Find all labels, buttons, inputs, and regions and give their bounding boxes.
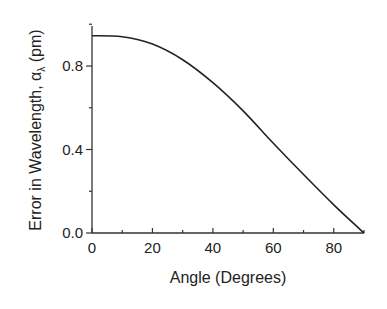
x-axis-label: Angle (Degrees) — [170, 269, 287, 286]
y-label-prefix: Error in Wavelength, — [27, 81, 44, 231]
x-tick-label: 40 — [205, 239, 222, 256]
y-label-symbol: α — [27, 72, 44, 81]
x-tick-label: 60 — [265, 239, 282, 256]
x-tick-label: 0 — [88, 239, 96, 256]
chart: 020406080 0.00.40.8 Angle (Degrees) Erro… — [0, 0, 387, 309]
x-tick-label: 80 — [325, 239, 342, 256]
plot-area: 020406080 0.00.40.8 — [62, 24, 364, 256]
y-ticks: 0.00.40.8 — [62, 24, 92, 241]
y-tick-label: 0.8 — [62, 57, 83, 74]
y-tick-label: 0.0 — [62, 224, 83, 241]
data-line — [92, 36, 364, 233]
y-axis-label: Error in Wavelength, αλ (pm) — [27, 29, 47, 230]
x-ticks: 020406080 — [88, 228, 364, 256]
y-tick-label: 0.4 — [62, 141, 83, 158]
y-label-suffix: (pm) — [27, 29, 44, 66]
x-tick-label: 20 — [144, 239, 161, 256]
